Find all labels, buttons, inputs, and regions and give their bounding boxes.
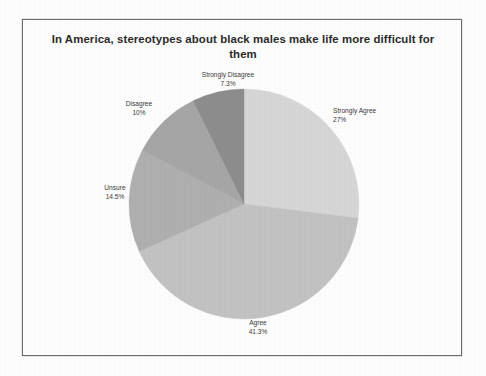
pie-label-unsure-value: 14.5% xyxy=(80,192,150,201)
pie-label-strongly-disagree-name: Strongly Disagree xyxy=(178,70,278,79)
pie-label-agree: Agree 41.3% xyxy=(218,318,298,336)
pie-slice-group xyxy=(129,89,359,319)
pie-chart: Strongly Agree 27% Agree 41.3% Unsure 14… xyxy=(23,20,463,357)
pie-label-strongly-disagree: Strongly Disagree 7.3% xyxy=(178,70,278,88)
pie-label-agree-value: 41.3% xyxy=(218,327,298,336)
pie-label-unsure-name: Unsure xyxy=(80,183,150,192)
slide-page: In America, stereotypes about black male… xyxy=(0,0,486,376)
pie-label-unsure: Unsure 14.5% xyxy=(80,183,150,201)
pie-label-disagree: Disagree 10% xyxy=(99,99,179,117)
pie-label-strongly-agree: Strongly Agree 27% xyxy=(333,106,433,124)
chart-frame: In America, stereotypes about black male… xyxy=(22,19,462,356)
pie-label-disagree-name: Disagree xyxy=(99,99,179,108)
pie-label-disagree-value: 10% xyxy=(99,108,179,117)
pie-label-strongly-disagree-value: 7.3% xyxy=(178,79,278,88)
pie-label-agree-name: Agree xyxy=(218,318,298,327)
pie-label-strongly-agree-name: Strongly Agree xyxy=(333,106,433,115)
pie-label-strongly-agree-value: 27% xyxy=(333,115,433,124)
